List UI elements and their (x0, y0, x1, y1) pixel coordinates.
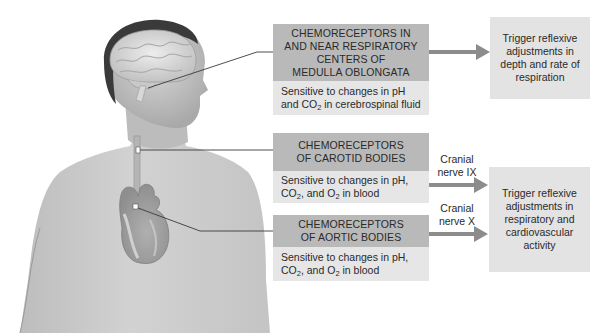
carotid-chemoreceptor-header: CHEMORECEPTORS OF CAROTID BODIES (273, 133, 429, 171)
medulla-sensitivity-box: Sensitive to changes in pH and CO2 in ce… (273, 81, 429, 115)
sensitivity-text: CO2, and O2 in blood (281, 187, 421, 200)
header-line: OF AORTIC BODIES (298, 231, 404, 244)
sensitivity-text: Sensitive to changes in pH (281, 85, 421, 98)
arrow-aortic-to-cardio (428, 226, 488, 242)
header-line: CHEMORECEPTORS IN (284, 27, 417, 40)
aortic-chemoreceptor-header: CHEMORECEPTORS OF AORTIC BODIES (273, 215, 429, 247)
aortic-sensitivity-box: Sensitive to changes in pH, CO2, and O2 … (273, 247, 429, 281)
carotid-artery (134, 136, 140, 196)
respiration-response-box: Trigger reflexive adjustments in depth a… (490, 17, 590, 99)
header-line: CHEMORECEPTORS (296, 139, 405, 152)
sensitivity-text: Sensitive to changes in pH, (281, 174, 421, 187)
header-line: OF CAROTID BODIES (296, 152, 405, 165)
header-line: CENTERS OF (284, 53, 417, 66)
arrow-carotid-to-cardio (428, 177, 488, 193)
sensitivity-text: CO2, and O2 in blood (281, 264, 421, 277)
header-line: CHEMORECEPTORS (298, 218, 404, 231)
header-line: AND NEAR RESPIRATORY (284, 40, 417, 53)
cardiovascular-response-box: Trigger reflexive adjustments in respira… (489, 167, 590, 272)
carotid-body-marker (136, 147, 140, 153)
cranial-nerve-ix-label: Cranial nerve IX (432, 153, 482, 179)
medulla-chemoreceptor-header: CHEMORECEPTORS IN AND NEAR RESPIRATORY C… (273, 24, 429, 81)
arrow-medulla-to-respiration (429, 44, 490, 60)
carotid-sensitivity-box: Sensitive to changes in pH, CO2, and O2 … (273, 171, 429, 203)
sensitivity-text: Sensitive to changes in pH, (281, 251, 421, 264)
aortic-body-marker (133, 204, 138, 209)
cranial-nerve-x-label: Cranial nerve X (432, 202, 482, 228)
header-line: MEDULLA OBLONGATA (284, 66, 417, 79)
sensitivity-text: and CO2 in cerebrospinal fluid (281, 98, 421, 111)
